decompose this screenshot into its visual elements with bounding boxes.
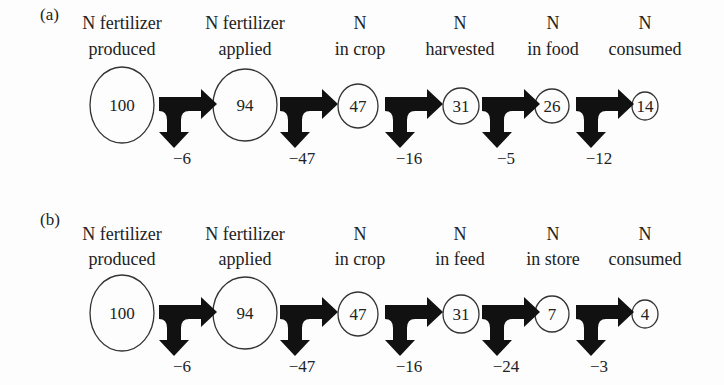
panel-a: (a) N fertilizer produced N fertilizer a… xyxy=(40,5,681,168)
stage-b5-line2: in store xyxy=(526,249,580,269)
split-arrow-icon xyxy=(482,297,540,356)
stage-b2-line2: applied xyxy=(219,249,272,269)
stage-a5-line2: in food xyxy=(527,39,579,59)
stage-b5-line1: N xyxy=(547,224,560,244)
stage-b2-line1: N fertilizer xyxy=(205,224,284,244)
stage-b6-line2: consumed xyxy=(609,249,682,269)
node-a6-value: 14 xyxy=(637,97,655,116)
stage-a4-line2: harvested xyxy=(426,39,495,59)
node-a5-value: 26 xyxy=(544,97,561,116)
stage-b3-line1: N xyxy=(354,224,367,244)
loss-a3: −16 xyxy=(396,149,423,168)
stage-a6-line1: N xyxy=(639,13,652,33)
split-arrow-icon xyxy=(280,89,338,148)
stage-b3-line2: in crop xyxy=(335,249,385,269)
stage-a5-line1: N xyxy=(547,13,560,33)
node-a1-value: 100 xyxy=(109,96,135,115)
node-b5-value: 7 xyxy=(548,305,557,324)
loss-a5: −12 xyxy=(586,149,613,168)
node-a2-value: 94 xyxy=(237,96,255,115)
node-b4-value: 31 xyxy=(453,305,470,324)
node-a4-value: 31 xyxy=(453,97,470,116)
panel-b-label: (b) xyxy=(40,210,60,229)
loss-a4: −5 xyxy=(497,149,515,168)
stage-b4-line2: in feed xyxy=(435,249,484,269)
node-b1-value: 100 xyxy=(109,304,135,323)
panel-b: (b) N fertilizer produced N fertilizer a… xyxy=(40,210,681,376)
split-arrow-icon xyxy=(385,89,443,148)
stage-b4-line1: N xyxy=(454,224,467,244)
split-arrow-icon xyxy=(482,89,540,148)
loss-b5: −3 xyxy=(590,357,608,376)
split-arrow-icon xyxy=(576,89,634,148)
loss-b3: −16 xyxy=(396,357,423,376)
stage-a1-line2: produced xyxy=(89,39,156,59)
stage-a6-line2: consumed xyxy=(609,39,682,59)
stage-a4-line1: N xyxy=(454,13,467,33)
stage-a2-line1: N fertilizer xyxy=(205,13,284,33)
node-a3-value: 47 xyxy=(350,97,368,116)
stage-a3-line1: N xyxy=(354,13,367,33)
loss-b4: −24 xyxy=(493,357,520,376)
node-b2-value: 94 xyxy=(237,304,255,323)
stage-b1-line2: produced xyxy=(89,249,156,269)
split-arrow-icon xyxy=(159,297,217,356)
stage-a1-line1: N fertilizer xyxy=(82,13,161,33)
node-b3-value: 47 xyxy=(350,305,368,324)
split-arrow-icon xyxy=(576,297,634,356)
split-arrow-icon xyxy=(280,297,338,356)
stage-b1-line1: N fertilizer xyxy=(82,224,161,244)
stage-a3-line2: in crop xyxy=(335,39,385,59)
loss-a2: −47 xyxy=(289,149,316,168)
loss-b2: −47 xyxy=(289,357,316,376)
split-arrow-icon xyxy=(385,297,443,356)
loss-a1: −6 xyxy=(173,149,191,168)
loss-b1: −6 xyxy=(173,357,191,376)
stage-a2-line2: applied xyxy=(219,39,272,59)
panel-a-label: (a) xyxy=(40,5,59,24)
stage-b6-line1: N xyxy=(639,224,652,244)
node-b6-value: 4 xyxy=(641,305,650,324)
split-arrow-icon xyxy=(159,89,217,148)
nitrogen-flow-diagram: (a) N fertilizer produced N fertilizer a… xyxy=(0,0,724,385)
